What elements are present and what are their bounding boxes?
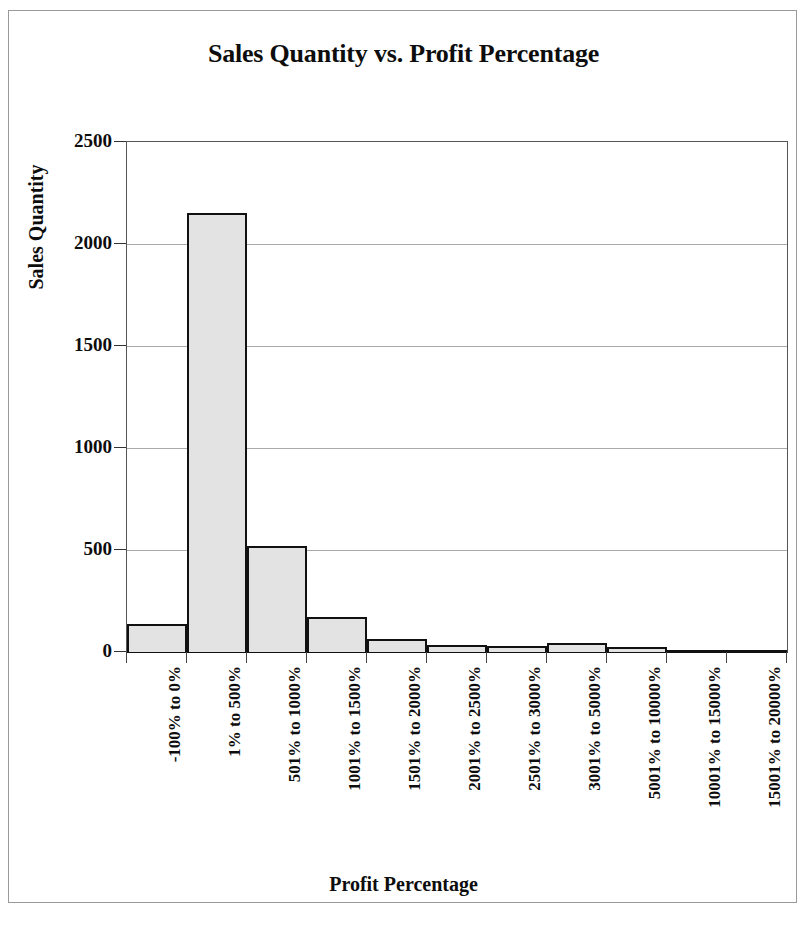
- y-axis-tick-mark: [114, 141, 126, 142]
- x-axis-category-label: 1001% to 1500%: [345, 666, 365, 886]
- y-axis-tick-label: 0: [52, 640, 112, 662]
- x-axis-tick-label: 2001% to 2500%: [465, 666, 485, 791]
- x-axis-category-label: 2501% to 3000%: [525, 666, 545, 886]
- y-axis-tick-label: 500: [52, 538, 112, 560]
- x-axis-category-label: 2001% to 2500%: [465, 666, 485, 886]
- x-axis-category-label: -100% to 0%: [165, 666, 185, 886]
- bar: [247, 546, 307, 652]
- bar: [727, 650, 787, 652]
- x-axis-tick-mark: [606, 652, 607, 663]
- x-axis-tick-label: 2501% to 3000%: [525, 666, 545, 791]
- y-axis-tick-label: 1500: [52, 334, 112, 356]
- x-axis-tick-label: 1% to 500%: [225, 666, 245, 757]
- x-axis-tick-mark: [426, 652, 427, 663]
- bar: [187, 213, 247, 652]
- x-axis-tick-mark: [786, 652, 787, 663]
- bar: [427, 645, 487, 652]
- x-axis-tick-label: 15001% to 20000%: [765, 666, 785, 808]
- x-axis-tick-label: 501% to 1000%: [285, 666, 305, 782]
- bar: [667, 650, 727, 652]
- x-axis-tick-label: 5001% to 10000%: [645, 666, 665, 799]
- x-axis-tick-mark: [486, 652, 487, 663]
- x-axis-tick-mark: [666, 652, 667, 663]
- x-axis-tick-label: 1001% to 1500%: [345, 666, 365, 791]
- x-axis-tick-label: 10001% to 15000%: [705, 666, 725, 808]
- x-axis-category-label: 1% to 500%: [225, 666, 245, 886]
- x-axis-category-label: 1501% to 2000%: [405, 666, 425, 886]
- y-axis-tick-mark: [114, 243, 126, 244]
- chart-frame: Sales Quantity vs. Profit Percentage Sal…: [8, 10, 797, 903]
- y-axis-tick-mark: [114, 447, 126, 448]
- x-axis-category-label: 3001% to 5000%: [585, 666, 605, 886]
- plot-area: [126, 141, 788, 653]
- x-axis-tick-mark: [726, 652, 727, 663]
- x-axis-category-label: 501% to 1000%: [285, 666, 305, 886]
- y-axis-tick-mark: [114, 651, 126, 652]
- bar: [547, 643, 607, 652]
- x-axis-tick-mark: [126, 652, 127, 663]
- bar: [367, 639, 427, 652]
- bar: [307, 617, 367, 652]
- x-axis-category-label: 10001% to 15000%: [705, 666, 725, 886]
- y-axis-tick-label: 2000: [52, 232, 112, 254]
- x-axis-tick-label: 1501% to 2000%: [405, 666, 425, 791]
- x-axis-tick-label: -100% to 0%: [165, 666, 185, 762]
- x-axis-title: Profit Percentage: [9, 873, 798, 896]
- y-axis-tick-label: 2500: [52, 130, 112, 152]
- y-axis-tick-label: 1000: [52, 436, 112, 458]
- chart-title: Sales Quantity vs. Profit Percentage: [9, 39, 798, 69]
- bar: [127, 624, 187, 652]
- x-axis-tick-mark: [366, 652, 367, 663]
- y-axis-tick-mark: [114, 549, 126, 550]
- x-axis-tick-mark: [186, 652, 187, 663]
- y-axis-title: Sales Quantity: [25, 127, 51, 327]
- x-axis-category-label: 5001% to 10000%: [645, 666, 665, 886]
- x-axis-tick-mark: [246, 652, 247, 663]
- y-axis-tick-mark: [114, 345, 126, 346]
- x-axis-tick-mark: [306, 652, 307, 663]
- bar: [607, 647, 667, 652]
- bar: [487, 646, 547, 652]
- x-axis-tick-mark: [546, 652, 547, 663]
- x-axis-tick-label: 3001% to 5000%: [585, 666, 605, 791]
- x-axis-category-label: 15001% to 20000%: [765, 666, 785, 886]
